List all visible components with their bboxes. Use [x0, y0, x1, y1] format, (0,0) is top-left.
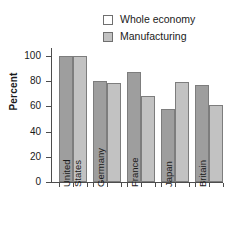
x-tick — [189, 183, 190, 187]
y-tick-label-80: 80 — [17, 75, 41, 86]
legend-swatch-manufacturing — [103, 32, 113, 42]
legend-item-whole-economy: Whole economy — [103, 11, 227, 28]
x-tick — [161, 183, 162, 187]
x-tick — [155, 183, 156, 187]
y-axis-title: Percent — [8, 62, 19, 122]
chart-legend: Whole economy Manufacturing — [103, 11, 227, 45]
y-tick-40: 40 — [46, 132, 52, 133]
y-axis-line — [51, 48, 52, 183]
legend-swatch-whole-economy — [103, 15, 113, 25]
x-label-united-states: States — [73, 160, 84, 187]
bar-germany-manufacturing — [107, 83, 121, 182]
y-tick-100: 100 — [46, 56, 52, 57]
x-tick — [93, 183, 94, 187]
x-label-france: France — [130, 157, 141, 187]
x-tick — [87, 183, 88, 187]
x-tick — [127, 183, 128, 187]
legend-item-manufacturing: Manufacturing — [103, 28, 227, 45]
y-tick-20: 20 — [46, 157, 52, 158]
y-tick-label-0: 0 — [17, 176, 41, 187]
y-tick-label-40: 40 — [17, 126, 41, 137]
x-tick — [59, 183, 60, 187]
x-label-germany: Germany — [96, 148, 107, 187]
y-tick-label-60: 60 — [17, 100, 41, 111]
x-tick — [195, 183, 196, 187]
bar-chart: Whole economy Manufacturing Percent 0204… — [0, 0, 230, 244]
y-tick-label-20: 20 — [17, 151, 41, 162]
legend-label-whole-economy: Whole economy — [120, 14, 195, 25]
x-label-japan: Japan — [164, 161, 175, 187]
x-tick — [223, 183, 224, 187]
bar-france-manufacturing — [141, 96, 155, 182]
x-tick — [121, 183, 122, 187]
bar-japan-manufacturing — [175, 82, 189, 182]
x-label-britain: Britain — [198, 160, 209, 187]
x-tick — [209, 183, 210, 187]
x-tick — [175, 183, 176, 187]
x-tick — [107, 183, 108, 187]
legend-label-manufacturing: Manufacturing — [120, 31, 187, 42]
y-tick-60: 60 — [46, 106, 52, 107]
x-label-united-states: United — [62, 160, 73, 187]
y-tick-0: 0 — [46, 182, 52, 183]
y-tick-label-100: 100 — [17, 50, 41, 61]
x-tick — [141, 183, 142, 187]
bar-britain-manufacturing — [209, 105, 223, 182]
y-tick-80: 80 — [46, 81, 52, 82]
